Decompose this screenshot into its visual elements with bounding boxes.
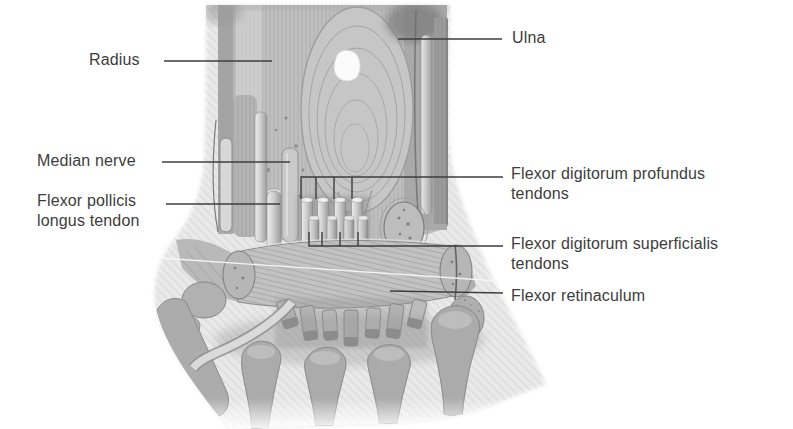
flexor-retinaculum-band xyxy=(223,239,472,308)
label-radius: Radius xyxy=(89,50,140,70)
label-ulna: Ulna xyxy=(512,28,546,48)
label-median-nerve: Median nerve xyxy=(37,151,136,171)
anatomy-figure: Radius Ulna Median nerve Flexor pollicis… xyxy=(0,0,793,429)
muscle-window-hole xyxy=(334,50,360,81)
label-flexor-pollicis-longus: Flexor pollicis longus tendon xyxy=(37,191,139,231)
label-flexor-digitorum-profundus: Flexor digitorum profundus tendons xyxy=(511,164,705,204)
label-flexor-digitorum-superficialis: Flexor digitorum superficialis tendons xyxy=(511,234,718,274)
label-flexor-retinaculum: Flexor retinaculum xyxy=(511,286,645,306)
